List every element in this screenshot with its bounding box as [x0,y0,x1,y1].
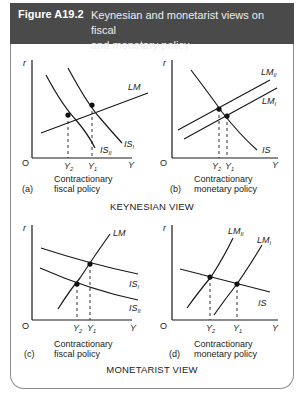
panel-a-lm-curve [41,93,148,133]
monetarist-view-label: MONETARIST VIEW [10,364,294,375]
panel-a-equilibrium-2 [65,112,70,117]
panel-b-origin-label: O [160,158,167,168]
panel-b-lm1-label: LMI [262,96,277,107]
keynesian-view-label: KEYNESIAN VIEW [10,201,294,212]
panel-a-r-label: r [23,58,27,68]
panel-d-lm1-label: LMI [257,235,272,246]
panel-d-y-axis-label: Y [272,323,279,333]
panel-a-dropline-group [68,105,92,158]
panel-c-caption-line2: fiscal policy [54,349,101,359]
panel-b-y1-tick: Y1 [225,161,234,172]
panel-b-is-curve [191,70,257,150]
panel-c-is2-curve [40,268,138,300]
panel-c-origin-label: O [22,321,29,331]
panel-a-caption-line1: Contractionary [54,174,113,184]
diagram-canvas: r O Y LM ISI ISII Y2 Y1 Contractionary f… [0,0,301,394]
panel-a-is2-label: ISII [100,145,112,156]
panel-c-equilibrium-2 [74,281,79,286]
panel-c-lm-curve [58,234,110,309]
panel-c-is1-label: ISI [129,279,140,290]
panel-a-y1-tick: Y1 [88,161,97,172]
panel-d-is-label: IS [258,298,267,308]
panel-d-equilibrium-1 [234,281,239,286]
panel-b-lm2-curve [178,80,270,130]
panel-a-y-axis-label: Y [128,160,135,170]
panel-c-y2-tick: Y2 [73,323,82,334]
panel-b-y2-tick: Y2 [212,161,221,172]
panel-b-equilibrium-1 [224,113,229,118]
panel-d-r-label: r [163,223,167,233]
panel-d-dropline-group [210,277,237,320]
panel-a-is1-label: ISI [124,139,135,150]
panel-a-tag: (a) [22,184,33,194]
panel-b-tag: (b) [170,184,181,194]
panel-a-origin-label: O [22,158,29,168]
panel-d-caption-line2: monetary policy [194,349,258,359]
panel-d-lm2-label: LMII [228,226,244,237]
panel-c-is1-curve [41,248,138,274]
panel-c-r-label: r [23,223,27,233]
panel-a-lm-label: LM [128,82,141,92]
panel-c-caption-line1: Contractionary [54,339,113,349]
panel-b-equilibrium-2 [216,106,221,111]
panel-a-axes [32,60,132,158]
panel-c-y1-tick: Y1 [87,323,96,334]
panel-b-r-label: r [163,58,167,68]
panel-b-caption-line2: monetary policy [194,184,258,194]
panel-c-lm-label: LM [113,228,126,238]
panel-c-tag: (c) [24,349,35,359]
panel-c-equilibrium-1 [87,261,92,266]
panel-d-caption-line1: Contractionary [194,339,253,349]
panel-a-caption-line2: fiscal policy [54,184,101,194]
panel-c-axes [32,225,132,320]
panel-d-is-curve [180,269,270,292]
panel-d-origin-label: O [160,321,167,331]
panel-c-y-axis-label: Y [130,323,137,333]
panel-a-y2-tick: Y2 [64,161,73,172]
panel-d-tag: (d) [169,349,180,359]
panel-a-is2-curve [46,75,95,148]
panel-b-lm2-label: LMII [261,67,277,78]
panel-d-y2-tick: Y2 [206,323,215,334]
panel-a-equilibrium-1 [89,102,94,107]
panel-b-y-axis-label: Y [272,160,279,170]
panel-c-is2-label: ISII [129,303,141,314]
panel-d-equilibrium-2 [207,274,212,279]
panel-b-is-label: IS [262,145,271,155]
panel-b-caption-line1: Contractionary [194,174,253,184]
panel-d-y1-tick: Y1 [233,323,242,334]
